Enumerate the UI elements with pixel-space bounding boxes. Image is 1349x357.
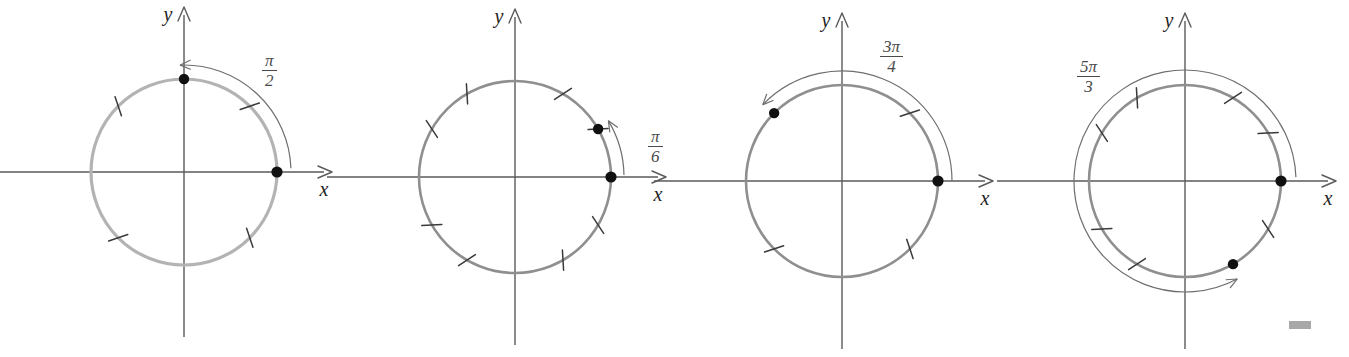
gray-rectangle-artifact xyxy=(1289,321,1311,329)
x-axis-label: x xyxy=(319,178,329,200)
terminal-point xyxy=(179,74,189,84)
panel-1-group: xy xyxy=(0,3,332,337)
angle-numerator: π xyxy=(648,128,663,147)
angle-numerator: π xyxy=(262,52,277,71)
initial-point xyxy=(932,175,943,186)
tick-mark xyxy=(765,246,784,252)
x-axis-label: x xyxy=(1323,187,1333,209)
panel-4-group: xy xyxy=(997,9,1336,349)
figure-canvas: xyxyxyxy π 2 π 6 3π 4 5π 3 xyxy=(0,0,1349,357)
angle-denominator: 6 xyxy=(648,147,663,165)
angle-label-panel-2: π 6 xyxy=(648,128,663,165)
panel-3-group: xy xyxy=(654,9,993,349)
angle-label-panel-1: π 2 xyxy=(262,52,277,89)
terminal-point xyxy=(769,108,779,118)
angle-numerator: 5π xyxy=(1077,58,1100,77)
x-axis-label: x xyxy=(653,183,663,205)
angle-denominator: 3 xyxy=(1077,77,1100,95)
tick-mark xyxy=(562,250,563,270)
initial-point xyxy=(605,171,616,182)
angle-label-panel-4: 5π 3 xyxy=(1077,58,1100,95)
angle-label-panel-3: 3π 4 xyxy=(880,38,903,75)
y-axis-label: y xyxy=(820,9,831,32)
angle-denominator: 4 xyxy=(880,57,903,75)
tick-mark xyxy=(422,224,442,225)
y-axis-label: y xyxy=(493,5,504,28)
initial-point xyxy=(271,166,282,177)
tick-mark xyxy=(1092,228,1112,229)
terminal-point xyxy=(1228,259,1238,269)
angle-numerator: 3π xyxy=(880,38,903,57)
terminal-point xyxy=(593,124,603,134)
tick-mark xyxy=(907,239,913,258)
tick-mark xyxy=(1258,132,1278,133)
panel-2-group: xy xyxy=(327,5,666,345)
y-axis-label: y xyxy=(1163,9,1174,32)
tick-mark xyxy=(900,110,919,116)
angle-denominator: 2 xyxy=(262,71,277,89)
initial-point xyxy=(1275,175,1286,186)
unit-circle-diagram-group: xyxyxyxy xyxy=(0,0,1349,357)
tick-mark xyxy=(1136,88,1137,108)
tick-mark xyxy=(466,84,467,104)
y-axis-label: y xyxy=(162,3,173,26)
x-axis-label: x xyxy=(980,187,990,209)
